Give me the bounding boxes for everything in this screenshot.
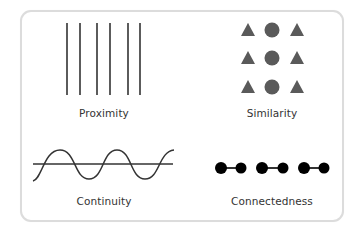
dot-shape — [256, 162, 268, 174]
connectedness-label: Connectedness — [231, 195, 313, 207]
triangle-shape — [290, 80, 304, 93]
circle-shape — [265, 23, 280, 38]
connectedness-figure — [215, 162, 330, 174]
circle-shape — [265, 51, 280, 66]
proximity-figure — [67, 23, 140, 95]
proximity-label: Proximity — [79, 107, 129, 119]
similarity-label: Similarity — [247, 107, 298, 119]
dot-shape — [215, 162, 227, 174]
dot-shape — [298, 162, 310, 174]
triangle-shape — [241, 23, 255, 36]
dot-shape — [278, 163, 289, 174]
triangle-shape — [290, 23, 304, 36]
dot-shape — [319, 163, 330, 174]
similarity-figure — [241, 23, 304, 95]
triangle-shape — [241, 80, 255, 93]
wave-line — [33, 150, 174, 181]
dot-shape — [236, 163, 247, 174]
triangle-shape — [290, 51, 304, 64]
continuity-label: Continuity — [76, 195, 131, 207]
circle-shape — [265, 80, 280, 95]
triangle-shape — [241, 51, 255, 64]
continuity-figure — [33, 150, 174, 181]
